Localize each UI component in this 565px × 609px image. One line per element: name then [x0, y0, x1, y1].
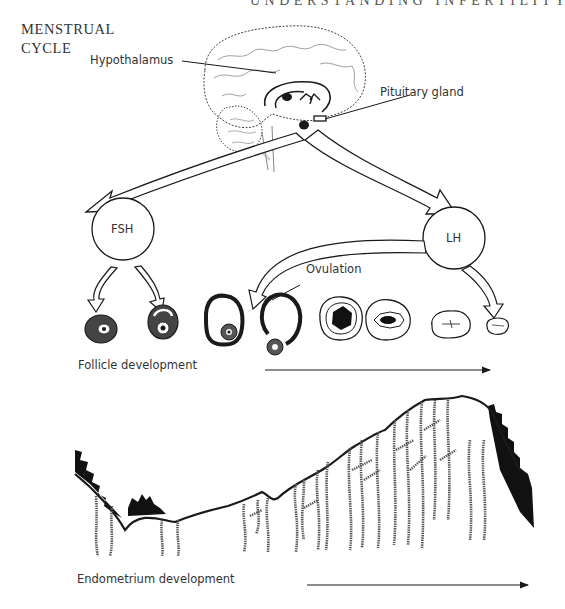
follicle-stage-regressed: [487, 318, 509, 334]
lh-to-regression-arrow: [462, 266, 503, 318]
follicle-stage-corpus-luteum: [366, 300, 411, 340]
lh-label: LH: [446, 231, 461, 245]
brain-outline: [204, 26, 365, 128]
fsh-label: FSH: [111, 222, 133, 236]
endometrium-illustration: [75, 396, 534, 556]
ovulation-leader-line: [272, 285, 300, 300]
endometrium-shed-left: [75, 450, 122, 518]
hypothalamus-leader-line: [182, 61, 276, 73]
hypothalamus-label: Hypothalamus: [90, 53, 173, 67]
follicle-stage-ruptured: [262, 295, 300, 355]
follicle-stage-primary: [85, 315, 117, 343]
endometrium-shed-right: [488, 404, 534, 528]
pituitary-gland-shape: [299, 121, 309, 130]
follicle-stage-corpus-albicans: [432, 311, 471, 338]
follicle-stage-mature: [206, 296, 243, 345]
pituitary-to-lh-arrow: [305, 130, 456, 214]
cerebellum: [217, 106, 262, 152]
menstrual-cycle-diagram: [0, 0, 565, 609]
follicle-stage-secondary: [148, 305, 178, 339]
fsh-to-follicles-arrows: [88, 266, 164, 312]
follicle-stage-corpus-luteum-early: [320, 297, 363, 340]
pituitary-gland-label: Pituitary gland: [380, 85, 464, 99]
endometrium-development-label: Endometrium development: [77, 572, 235, 586]
follicle-development-label: Follicle development: [78, 358, 197, 372]
ovulation-label: Ovulation: [306, 262, 361, 276]
follicle-stages: [85, 295, 509, 355]
